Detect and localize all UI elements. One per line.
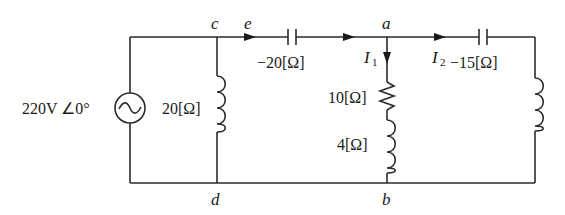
branch-inductor-label: 4[Ω] — [337, 136, 368, 153]
middle-branch — [380, 37, 395, 183]
current-arrow-i1 — [383, 52, 391, 64]
shunt-inductor — [217, 37, 225, 183]
right-capacitor — [479, 29, 487, 45]
branch-resistor-label: 10[Ω] — [328, 89, 367, 106]
branch-resistor — [380, 82, 394, 110]
current-i2-label: I — [431, 48, 439, 67]
series-capacitor — [288, 29, 296, 45]
node-c-label: c — [211, 14, 219, 33]
current-arrow-to-a — [343, 33, 355, 41]
ac-voltage-source — [115, 37, 145, 183]
branch-inductor — [387, 120, 395, 173]
current-arrow-i2 — [434, 33, 446, 41]
series-capacitor-label: −20[Ω] — [257, 54, 305, 71]
right-capacitor-label: −15[Ω] — [450, 54, 498, 71]
current-i1-subscript: 1 — [372, 56, 378, 68]
node-e-label: e — [244, 14, 252, 33]
source-label: 220V ∠0° — [22, 100, 90, 117]
current-i1-label: I — [363, 48, 371, 67]
node-a-label: a — [382, 14, 391, 33]
current-arrow-e — [244, 33, 256, 41]
shunt-inductor-label: 20[Ω] — [162, 100, 201, 117]
node-d-label: d — [211, 190, 220, 209]
node-b-label: b — [382, 190, 391, 209]
right-inductor — [535, 37, 543, 183]
circuit-diagram: 220V ∠0° 20[Ω] c d e a b −20[Ω] I 1 10[Ω… — [0, 0, 565, 215]
current-i2-subscript: 2 — [440, 56, 446, 68]
